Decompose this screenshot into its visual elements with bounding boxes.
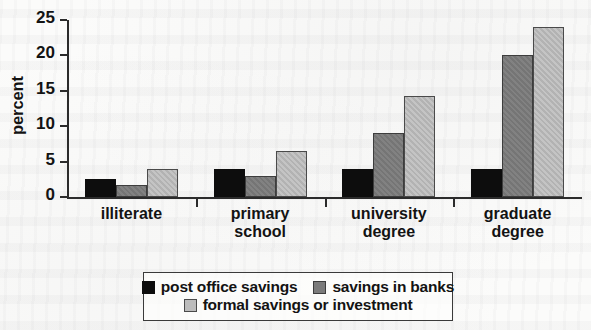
x-axis-category-label-line: illiterate: [67, 205, 195, 223]
y-axis-tick-label: 10: [36, 114, 55, 134]
y-axis-tick-label: 0: [46, 185, 55, 205]
bar: [342, 169, 373, 197]
legend-swatch-icon-formal-savings-or-investment: [184, 299, 197, 312]
legend-swatch-icon-savings-in-banks: [313, 281, 326, 294]
x-axis-category-label-line: degree: [325, 223, 453, 241]
chart-legend: post office savings savings in banks for…: [143, 272, 453, 321]
bar: [404, 96, 435, 197]
bar: [502, 55, 533, 197]
x-axis-category-label-line: degree: [454, 223, 582, 241]
bar: [276, 151, 307, 197]
legend-entry-post-office-savings: post office savings: [142, 278, 298, 296]
bar-chart-figure: percent 0510152025 illiterateprimaryscho…: [0, 0, 591, 330]
y-axis-label: percent: [8, 68, 27, 144]
x-axis-category-label-line: primary: [196, 205, 324, 223]
y-axis-tick: 25: [60, 19, 67, 21]
y-axis-tick-label: 25: [36, 8, 55, 28]
y-axis-tick: 5: [60, 161, 67, 163]
bar: [85, 179, 116, 197]
x-axis-category-label: primaryschool: [196, 205, 324, 241]
y-axis-tick-label: 20: [36, 43, 55, 63]
bar: [245, 176, 276, 197]
y-axis-tick: 0: [60, 196, 67, 198]
y-axis-tick: 20: [60, 54, 67, 56]
legend-swatch-icon-post-office-savings: [142, 281, 155, 294]
bar: [116, 185, 147, 197]
y-axis-tick-label: 5: [46, 150, 55, 170]
x-axis-category-label-line: school: [196, 223, 324, 241]
x-axis-category-label: universitydegree: [325, 205, 453, 241]
x-axis-category-label: illiterate: [67, 205, 195, 223]
legend-row-secondary: formal savings or investment: [152, 296, 444, 314]
legend-label-formal-savings-or-investment: formal savings or investment: [203, 296, 413, 314]
x-axis-category-label: graduatedegree: [454, 205, 582, 241]
x-axis-category-label-line: graduate: [454, 205, 582, 223]
y-axis-tick: 10: [60, 125, 67, 127]
bar: [373, 133, 404, 197]
bar: [214, 169, 245, 197]
bar: [471, 169, 502, 197]
x-axis-category-label-line: university: [325, 205, 453, 223]
plot-area: 0510152025: [67, 20, 582, 199]
legend-entry-savings-in-banks: savings in banks: [313, 278, 454, 296]
legend-label-post-office-savings: post office savings: [161, 278, 298, 296]
y-axis-line: [67, 20, 69, 199]
legend-label-savings-in-banks: savings in banks: [332, 278, 454, 296]
bar: [147, 169, 178, 197]
legend-entry-formal-savings-or-investment: formal savings or investment: [184, 296, 413, 314]
y-axis-tick-label: 15: [36, 79, 55, 99]
bar: [533, 27, 564, 197]
y-axis-tick: 15: [60, 90, 67, 92]
legend-row-primary: post office savings savings in banks: [152, 278, 444, 296]
